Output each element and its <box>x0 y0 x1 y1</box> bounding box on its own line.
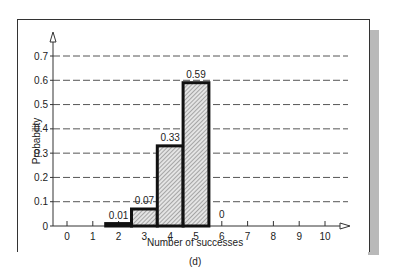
bar-5 <box>183 83 209 226</box>
data-label: 0.01 <box>109 210 129 221</box>
y-tick-label: 0.2 <box>34 172 48 183</box>
y-axis-arrow-icon <box>50 32 56 42</box>
x-tick-label: 8 <box>271 231 277 242</box>
y-tick-label: 0 <box>42 221 48 232</box>
x-tick-label: 7 <box>245 231 251 242</box>
chart-caption: (d) <box>189 256 201 267</box>
x-tick-label: 0 <box>64 231 70 242</box>
bar-3 <box>132 209 158 226</box>
bar-2 <box>106 224 132 226</box>
y-tick-label: 0.6 <box>34 75 48 86</box>
data-label: 0.07 <box>135 195 155 206</box>
y-tick-label: 0.5 <box>34 99 48 110</box>
x-axis-label: Number of successes <box>147 237 243 248</box>
x-tick-label: 1 <box>90 231 96 242</box>
x-tick-label: 10 <box>319 231 331 242</box>
data-label: 0 <box>219 209 225 220</box>
x-tick-label: 9 <box>296 231 302 242</box>
y-tick-label: 0.7 <box>34 51 48 62</box>
x-axis-arrow-icon <box>340 223 350 229</box>
data-label: 0.59 <box>186 69 206 80</box>
bar-4 <box>157 146 183 226</box>
data-label: 0.33 <box>160 132 180 143</box>
y-axis-label: Probability <box>31 118 42 165</box>
y-tick-label: 0.1 <box>34 196 48 207</box>
x-tick-label: 2 <box>116 231 122 242</box>
